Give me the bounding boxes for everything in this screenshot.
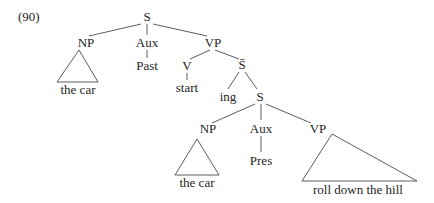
triangle-np-embedded xyxy=(175,139,219,175)
triangle-vp-embedded xyxy=(302,134,417,181)
leaf-the-car-2: the car xyxy=(179,175,215,190)
leaf-pres: Pres xyxy=(250,153,272,168)
leaf-ing: ing xyxy=(220,89,237,104)
edge-vp-v xyxy=(190,50,210,59)
edge-s-np2 xyxy=(212,104,255,123)
leaf-roll-down-the-hill: roll down the hill xyxy=(313,182,403,197)
node-s-root: S xyxy=(143,9,150,24)
leaf-the-car-1: the car xyxy=(60,82,96,97)
node-aux-embedded: Aux xyxy=(250,121,273,136)
edge-s-vp xyxy=(153,24,207,36)
edge-sbar-s xyxy=(245,72,257,89)
example-number: (90) xyxy=(18,9,40,24)
syntax-tree: (90) S NP the car Aux Past VP V start S̄… xyxy=(0,0,434,203)
edge-s-np xyxy=(89,24,141,36)
node-s-embedded: S xyxy=(256,89,263,104)
node-np-subject: NP xyxy=(78,35,95,50)
leaf-past: Past xyxy=(136,58,158,73)
node-sbar: S̄ xyxy=(238,57,245,72)
triangle-np-subject xyxy=(57,50,98,82)
edge-s-vp2 xyxy=(266,104,311,123)
node-vp-embedded: VP xyxy=(310,121,327,136)
node-vp: VP xyxy=(205,35,222,50)
node-np-embedded: NP xyxy=(200,121,217,136)
node-aux: Aux xyxy=(136,35,159,50)
edge-sbar-ing xyxy=(228,72,239,89)
node-v: V xyxy=(182,58,192,73)
edge-vp-sbar xyxy=(215,50,239,59)
leaf-start: start xyxy=(176,80,199,95)
